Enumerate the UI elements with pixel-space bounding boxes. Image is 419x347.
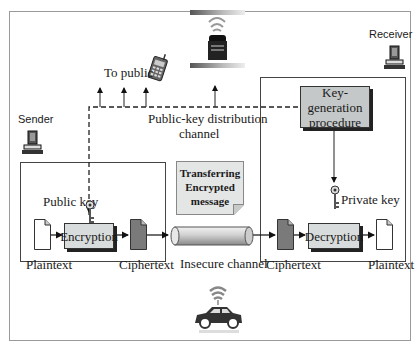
note-line-2: Encrypted	[177, 180, 243, 194]
car-icon	[193, 283, 245, 335]
receiver-label: Receiver	[369, 27, 412, 41]
private-key-label: Private key	[341, 193, 400, 207]
note-line-1: Transferring	[177, 166, 243, 180]
sender-plaintext-label: Plaintext	[26, 258, 72, 272]
receiver-plaintext-document-icon	[376, 219, 393, 250]
decryption-box: Decryption	[308, 223, 360, 249]
insecure-channel-label: Insecure channel	[180, 257, 268, 271]
distribution-channel-label-2: channel	[179, 127, 219, 141]
keygen-line-1: Key-generation	[301, 85, 369, 115]
encryption-box: Encryption	[64, 223, 114, 249]
sender-ciphertext-document-icon	[130, 219, 147, 250]
sender-plaintext-document-icon	[34, 219, 51, 250]
sender-computer-icon	[22, 130, 44, 156]
key-generation-box: Key-generation procedure	[300, 86, 370, 128]
receiver-ciphertext-label: Ciphertext	[266, 258, 321, 272]
sender-ciphertext-label: Ciphertext	[119, 258, 174, 272]
private-key-icon	[329, 185, 341, 211]
sender-label: Sender	[18, 112, 53, 126]
receiver-ciphertext-document-icon	[277, 219, 294, 250]
insecure-channel-pipe-icon	[170, 226, 254, 246]
transferring-message-note: Transferring Encrypted message	[176, 161, 244, 215]
receiver-computer-icon	[384, 45, 406, 71]
distribution-channel-label-1: Public-key distribution	[148, 112, 268, 126]
keygen-line-2: procedure	[309, 115, 361, 130]
roadside-unit-icon	[190, 10, 250, 70]
receiver-plaintext-label: Plaintext	[368, 258, 414, 272]
note-line-3: message	[177, 194, 243, 208]
to-public-label: To public	[104, 66, 153, 80]
